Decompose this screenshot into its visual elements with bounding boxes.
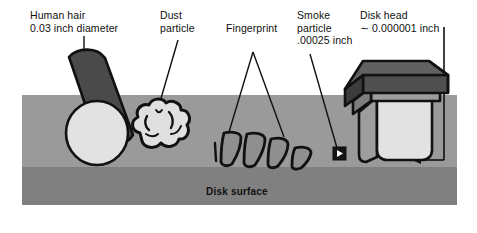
label-human-hair-line2: 0.03 inch diameter bbox=[30, 22, 118, 34]
label-fingerprint: Fingerprint bbox=[226, 22, 277, 35]
smoke-particle-marker bbox=[333, 147, 346, 160]
label-disk-surface: Disk surface bbox=[206, 186, 268, 197]
label-human-hair: Human hair0.03 inch diameter bbox=[30, 9, 118, 34]
label-disk-head-line2: ∼ 0.000001 inch bbox=[360, 22, 439, 34]
label-smoke-particle: Smokeparticle.00025 inch bbox=[297, 9, 352, 47]
label-disk-head-line1: Disk head bbox=[360, 9, 408, 21]
label-dust-particle-line2: particle bbox=[160, 22, 195, 34]
label-dust-particle: Dustparticle bbox=[160, 9, 195, 34]
label-smoke-particle-line1: Smoke bbox=[297, 9, 330, 21]
label-human-hair-line1: Human hair bbox=[30, 9, 85, 21]
diagram-canvas bbox=[0, 0, 477, 233]
label-fingerprint-line1: Fingerprint bbox=[226, 22, 277, 34]
disk-head-body bbox=[345, 61, 448, 162]
label-disk-head: Disk head∼ 0.000001 inch bbox=[360, 9, 439, 34]
dust-particle-blob bbox=[133, 99, 190, 147]
label-smoke-particle-line3: .00025 inch bbox=[297, 34, 352, 46]
disk-contaminants-diagram: Human hair0.03 inch diameter Dustparticl… bbox=[0, 0, 477, 233]
label-smoke-particle-line2: particle bbox=[297, 22, 332, 34]
label-dust-particle-line1: Dust bbox=[160, 9, 182, 21]
